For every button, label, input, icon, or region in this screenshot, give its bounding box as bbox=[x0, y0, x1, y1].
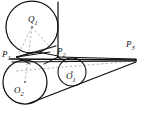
label-p3: P3 bbox=[126, 40, 135, 51]
segment-p2-crossing-a bbox=[44, 57, 58, 64]
label-o1-sub: 1 bbox=[73, 76, 76, 83]
label-p1: P1 bbox=[2, 50, 11, 61]
point-marker-o2 bbox=[24, 81, 26, 83]
figure-canvas bbox=[0, 0, 143, 120]
label-p2: P2 bbox=[57, 47, 66, 58]
point-marker-p1 bbox=[16, 56, 18, 58]
label-o2-sub: 2 bbox=[21, 90, 24, 97]
label-p2-sub: 2 bbox=[63, 51, 66, 58]
geometry-figure: Q1 P1 P2 P3 O1 O2 bbox=[0, 0, 143, 120]
label-o2: O2 bbox=[14, 86, 24, 97]
point-marker-q1 bbox=[31, 26, 33, 28]
label-q1-sub: 1 bbox=[35, 19, 38, 26]
label-p3-sub: 3 bbox=[132, 44, 135, 51]
label-o1: O1 bbox=[66, 72, 76, 83]
tangent-line-lower-external-to-p3 bbox=[30, 62, 136, 103]
point-marker-p3 bbox=[135, 59, 137, 61]
label-p1-sub: 1 bbox=[8, 54, 11, 61]
label-q1: Q1 bbox=[28, 15, 38, 26]
